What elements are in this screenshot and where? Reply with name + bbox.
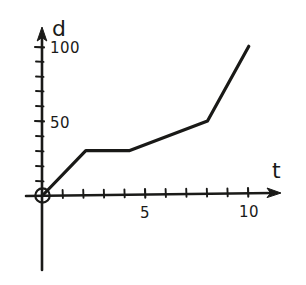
x-tick-label-5: 5 (140, 204, 150, 222)
x-axis-label: t (272, 158, 281, 183)
y-tick-label-100: 100 (50, 39, 80, 57)
x-tick-label-10: 10 (239, 203, 259, 221)
x-axis-group (26, 188, 281, 198)
y-axis-label: d (52, 16, 66, 41)
y-tick-label-50: 50 (50, 114, 70, 132)
y-axis-group (37, 27, 47, 270)
data-series-line (43, 46, 249, 195)
hand-drawn-line-chart: d t 100 50 5 10 (0, 0, 306, 285)
